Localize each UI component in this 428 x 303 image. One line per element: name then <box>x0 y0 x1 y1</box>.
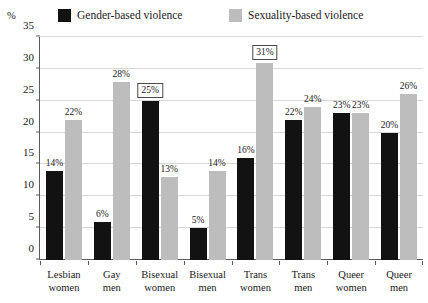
bar-group: 20%26% <box>375 37 423 260</box>
legend-item-gender-based-violence: Gender-based violence <box>58 9 182 22</box>
legend-label-gender-based-violence: Gender-based violence <box>77 9 182 22</box>
bar-slot: 31% <box>256 37 273 260</box>
x-axis-category: Gaymen <box>88 261 136 303</box>
y-tick-label: 35 <box>23 19 34 31</box>
bar-value-label: 5% <box>192 215 205 226</box>
bar-slot: 23% <box>352 37 369 260</box>
x-axis-category-line: men <box>375 282 423 295</box>
y-tick-label: 0 <box>29 242 35 254</box>
bar[interactable]: 20% <box>381 133 398 260</box>
bar-value-label: 14% <box>208 158 225 169</box>
x-tick-mark <box>375 261 376 265</box>
bar-slot: 25% <box>142 37 159 260</box>
bar-slot: 23% <box>333 37 350 260</box>
chart-legend: Gender-based violence Sexuality-based vi… <box>0 9 428 29</box>
x-tick-mark <box>422 261 423 265</box>
y-tick-label: 30 <box>23 51 34 63</box>
bar[interactable]: 23% <box>333 113 350 260</box>
bar-group: 16%31% <box>232 37 280 260</box>
y-axis-unit-label: % <box>7 10 16 21</box>
x-axis-category: Transmen <box>279 261 327 303</box>
bar-group: 14%22% <box>40 37 88 260</box>
bar-value-label: 26% <box>400 81 417 92</box>
bar-value-label: 22% <box>285 107 302 118</box>
x-tick-mark <box>279 261 280 265</box>
x-axis-category: Lesbianwomen <box>40 261 88 303</box>
x-axis-category-line: Lesbian <box>40 269 88 282</box>
x-axis-category: Queerwomen <box>327 261 375 303</box>
x-axis-category: Bisexualwomen <box>136 261 184 303</box>
legend-item-sexuality-based-violence: Sexuality-based violence <box>229 9 363 22</box>
x-tick-mark <box>327 261 328 265</box>
bar-value-label: 20% <box>381 120 398 131</box>
bar-value-label: 13% <box>160 164 177 175</box>
bar[interactable]: 14% <box>46 171 63 260</box>
x-tick-mark <box>184 261 185 265</box>
x-axis-category-line: Bisexual <box>136 269 184 282</box>
x-axis-category: Queermen <box>375 261 423 303</box>
bar[interactable]: 6% <box>94 222 111 260</box>
bar[interactable]: 25% <box>142 101 159 260</box>
bar-value-label: 23% <box>352 100 369 111</box>
x-axis-category-line: Queer <box>375 269 423 282</box>
x-tick-mark <box>232 261 233 265</box>
bar[interactable]: 13% <box>161 177 178 260</box>
bar-value-label: 24% <box>304 94 321 105</box>
bar-group: 25%13% <box>136 37 184 260</box>
bar[interactable]: 16% <box>237 158 254 260</box>
bar-value-label: 28% <box>113 69 130 80</box>
bar-group: 23%23% <box>327 37 375 260</box>
y-tick-label: 20 <box>23 115 34 127</box>
bar-slot: 22% <box>285 37 302 260</box>
x-axis-category-line: women <box>136 282 184 295</box>
x-axis-category-line: women <box>40 282 88 295</box>
y-tick-label: 10 <box>23 178 34 190</box>
bar-value-label: 16% <box>237 145 254 156</box>
bar-value-label: 14% <box>46 158 63 169</box>
x-tick-mark <box>40 261 41 265</box>
legend-swatch-sexuality-based-violence <box>229 9 242 22</box>
bar[interactable]: 31% <box>256 63 273 261</box>
bar[interactable]: 26% <box>400 94 417 260</box>
bar-group: 22%24% <box>279 37 327 260</box>
x-tick-mark <box>88 261 89 265</box>
x-axis-category-line: Bisexual <box>184 269 232 282</box>
x-axis-category-line: Trans <box>279 269 327 282</box>
x-axis-category-line: women <box>327 282 375 295</box>
x-tick-mark <box>136 261 137 265</box>
y-tick-label: 25 <box>23 83 34 95</box>
bar[interactable]: 23% <box>352 113 369 260</box>
bar-slot: 28% <box>113 37 130 260</box>
bar-slot: 20% <box>381 37 398 260</box>
bar-value-label: 6% <box>96 209 109 220</box>
bar[interactable]: 14% <box>209 171 226 260</box>
plot-area: 05101520253035 14%22%6%28%25%13%5%14%16%… <box>40 37 423 260</box>
x-axis-category-line: men <box>88 282 136 295</box>
bar-slot: 13% <box>161 37 178 260</box>
x-axis-category-line: Gay <box>88 269 136 282</box>
bar-slot: 5% <box>190 37 207 260</box>
bar[interactable]: 22% <box>65 120 82 260</box>
x-axis-category: Bisexualmen <box>184 261 232 303</box>
bar-groups: 14%22%6%28%25%13%5%14%16%31%22%24%23%23%… <box>40 37 423 260</box>
x-axis-category: Transwomen <box>232 261 280 303</box>
x-axis-category-line: men <box>184 282 232 295</box>
bar-value-label: 22% <box>65 107 82 118</box>
bar-slot: 14% <box>46 37 63 260</box>
legend-label-sexuality-based-violence: Sexuality-based violence <box>248 9 363 22</box>
bar-group: 6%28% <box>88 37 136 260</box>
x-axis-category-line: Queer <box>327 269 375 282</box>
bar[interactable]: 28% <box>113 82 130 260</box>
bar-slot: 16% <box>237 37 254 260</box>
bar[interactable]: 5% <box>190 228 207 260</box>
bar-group: 5%14% <box>184 37 232 260</box>
y-tick-label: 5 <box>29 210 35 222</box>
bar[interactable]: 22% <box>285 120 302 260</box>
bar-value-label: 23% <box>333 100 350 111</box>
bar[interactable]: 24% <box>304 107 321 260</box>
bar-value-label: 31% <box>252 45 277 60</box>
x-axis-category-line: men <box>279 282 327 295</box>
bar-slot: 22% <box>65 37 82 260</box>
bar-slot: 24% <box>304 37 321 260</box>
x-axis-category-line: women <box>232 282 280 295</box>
